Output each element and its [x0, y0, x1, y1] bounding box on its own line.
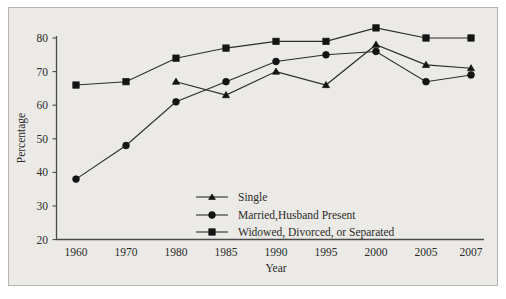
chart-figure: 80 70 60 50 40 30 20 Percentage 1960 197…: [0, 0, 506, 299]
y-tick-label-70: 70: [37, 66, 49, 78]
y-tick-label-80: 80: [37, 32, 49, 44]
x-tick-label-2005: 2005: [415, 246, 438, 258]
square-data-point: [373, 25, 379, 31]
series-layer: [73, 25, 475, 183]
triangle-data-point: [172, 78, 179, 84]
circle-data-point: [468, 72, 475, 79]
square-data-point: [123, 78, 129, 84]
y-tick-label-30: 30: [37, 200, 49, 212]
x-tick-label-1995: 1995: [315, 246, 338, 258]
x-tick-label-1960: 1960: [65, 246, 88, 258]
line-chart: 80 70 60 50 40 30 20 Percentage 1960 197…: [0, 0, 506, 299]
square-data-point: [323, 38, 329, 44]
circle-data-point: [373, 48, 380, 55]
x-tick-label-2007: 2007: [460, 246, 483, 258]
x-tick-label-1980: 1980: [165, 246, 188, 258]
square-data-point: [73, 82, 79, 88]
square-data-point: [223, 45, 229, 51]
circle-marker: [209, 212, 216, 219]
square-data-point: [173, 55, 179, 61]
legend-label-single: Single: [238, 191, 267, 204]
circle-data-point: [223, 78, 230, 85]
square-data-point: [468, 35, 474, 41]
square-data-point: [423, 35, 429, 41]
circle-data-point: [273, 58, 280, 65]
x-tick-label-2000: 2000: [365, 246, 388, 258]
circle-data-point: [323, 51, 330, 58]
chart-legend: Single Married,Husband Present Widowed, …: [196, 191, 395, 239]
x-tick-label-1970: 1970: [115, 246, 138, 258]
series-line: [76, 28, 471, 85]
y-tick-label-60: 60: [37, 99, 49, 111]
y-tick-label-20: 20: [37, 234, 49, 246]
circle-data-point: [173, 98, 180, 105]
x-tick-label-1990: 1990: [265, 246, 288, 258]
legend-label-married: Married,Husband Present: [238, 209, 356, 222]
triangle-data-point: [272, 68, 279, 74]
triangle-data-point: [372, 41, 379, 47]
legend-label-widowed: Widowed, Divorced, or Separated: [238, 226, 395, 239]
series-line: [76, 51, 471, 179]
series-circle: [73, 48, 475, 182]
series-square: [73, 25, 474, 89]
y-tick-label-40: 40: [37, 166, 49, 178]
circle-data-point: [123, 142, 130, 149]
square-marker: [209, 229, 215, 235]
x-axis-title: Year: [265, 262, 286, 274]
x-tick-label-1985: 1985: [215, 246, 238, 258]
y-tick-label-50: 50: [37, 133, 49, 145]
y-axis-title: Percentage: [15, 113, 28, 163]
square-data-point: [273, 38, 279, 44]
circle-data-point: [423, 78, 430, 85]
circle-data-point: [73, 176, 80, 183]
